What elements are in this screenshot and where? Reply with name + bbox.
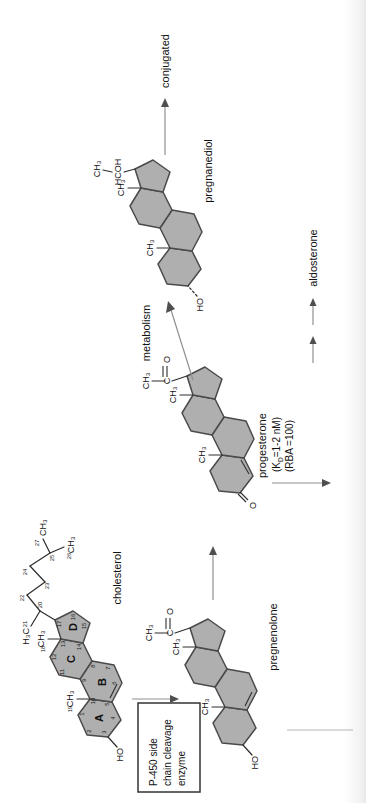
conjugated-label: conjugated	[159, 34, 171, 88]
enzyme-box-line3: enzyme	[176, 751, 187, 786]
ring-letter-a: A	[93, 714, 105, 722]
metabolism-label: metabolism	[140, 305, 152, 361]
progesterone-ketone-o-label: O	[248, 502, 258, 509]
progesterone-steroid-rings	[182, 367, 254, 493]
arrow-progesterone-to-aldosterone-1	[310, 336, 317, 363]
carbon-number-8: 8	[90, 664, 96, 667]
carbon-number-25: 25	[49, 555, 55, 561]
carbon-number-10: 10	[90, 698, 96, 704]
cholesterol-c19-methyl-label: CH₃	[65, 690, 75, 707]
carbon-number-18: 18	[40, 646, 46, 652]
pregnanediol-side-methyl-label: CH₃	[92, 160, 102, 177]
progesterone-c18-methyl-label: CH₃	[168, 386, 178, 403]
pregnenolone-name-label: pregnenolone	[267, 603, 279, 670]
carbon-number-1: 1	[79, 712, 85, 715]
carbon-number-11: 11	[59, 669, 65, 675]
arrow-progesterone-to-aldosterone-2	[310, 298, 317, 325]
carbon-number-9: 9	[81, 678, 87, 681]
pregnenolone-carbonyl-o-label: O	[165, 608, 175, 615]
cholesterol-hydroxyl-label: HO	[115, 748, 125, 762]
enzyme-box-line2: chain cleavage	[162, 719, 173, 786]
pregnanediol-steroid-rings	[130, 160, 202, 286]
cholesterol-c18-methyl-label: CH₃	[36, 630, 46, 647]
carbon-number-12: 12	[51, 654, 57, 660]
progesterone-carbonyl-c-label: C	[162, 377, 172, 384]
rotated-diagram-stage: HO CH₃ CH₃ H₃C CH₃ CH₃ A B C D 1 2 3 4 5…	[0, 0, 366, 803]
enzyme-box-line1: P-450 side	[148, 738, 159, 786]
cholesterol-name-label: cholesterol	[111, 551, 123, 604]
carbon-number-16: 16	[70, 614, 76, 620]
carbon-number-23: 23	[44, 583, 50, 589]
pregnenolone-c19-methyl-label: CH₃	[200, 698, 210, 715]
progesterone-acetyl-methyl-label: CH₃	[141, 372, 151, 389]
carbon-number-20: 20	[37, 602, 43, 608]
progesterone-carbonyl-o-label: O	[162, 356, 172, 363]
arrow-cholesterol-to-pregnenolone	[132, 695, 179, 703]
carbon-number-19: 19	[67, 706, 73, 712]
ring-letter-c: C	[65, 655, 77, 663]
scanned-figure-page: HO CH₃ CH₃ H₃C CH₃ CH₃ A B C D 1 2 3 4 5…	[0, 0, 366, 803]
pregnanediol-name-label: pregnanediol	[202, 139, 214, 203]
ring-letter-d: D	[67, 623, 79, 631]
pregnanediol-c19-methyl-label: CH₃	[145, 239, 155, 256]
pregnenolone-hydroxyl-label: HO	[250, 756, 260, 770]
cholesterol-c21-methyl-label: H₃C	[21, 628, 31, 645]
carbon-number-21: 21	[22, 621, 28, 627]
arrow-progesterone-down	[272, 479, 331, 487]
arrow-pregnanediol-to-conjugated	[161, 98, 169, 155]
progesterone-affinity-label: (KD=1-2 nM)	[271, 417, 284, 472]
cholesterol-c27-methyl-label: CH₃	[38, 519, 48, 536]
enzyme-box: P-450 side chain cleavage enzyme	[138, 703, 200, 792]
ring-letter-b: B	[96, 678, 108, 686]
steroid-pathway-diagram: HO CH₃ CH₃ H₃C CH₃ CH₃ A B C D 1 2 3 4 5…	[0, 0, 366, 803]
carbon-number-15: 15	[81, 623, 87, 629]
pregnenolone-carbonyl-c-label: C	[165, 629, 175, 636]
carbon-number-3: 3	[101, 730, 107, 733]
carbon-number-6: 6	[111, 681, 117, 684]
cholesterol-c26-methyl-label: CH₃	[66, 536, 76, 553]
pregnanediol-hcoh-label: HCOH	[113, 159, 123, 186]
pregnenolone-acetyl-methyl-label: CH₃	[144, 624, 154, 641]
pregnanediol-hydroxyl-label: HO	[195, 298, 205, 312]
carbon-number-26: 26	[66, 553, 72, 559]
aldosterone-label: aldosterone	[307, 229, 319, 287]
carbon-number-7: 7	[105, 666, 111, 669]
carbon-number-14: 14	[76, 643, 82, 650]
progesterone-c19-methyl-label: CH₃	[197, 446, 207, 463]
progesterone-rba-label: (RBA =100)	[284, 420, 295, 472]
carbon-number-13: 13	[60, 641, 66, 647]
pregnenolone-c18-methyl-label: CH₃	[171, 638, 181, 655]
carbon-number-5: 5	[104, 702, 110, 705]
progesterone-name-label: progesterone	[256, 413, 268, 478]
cholesterol-structure: HO CH₃ CH₃ H₃C CH₃ CH₃ A B C D 1 2 3 4 5…	[19, 519, 125, 761]
arrow-progesterone-to-metabolism	[166, 301, 193, 380]
arrow-pregnenolone-to-progesterone	[209, 546, 217, 600]
progesterone-structure: O CH₃ CH₃ C O CH₃	[141, 356, 258, 509]
carbon-number-24: 24	[22, 568, 28, 575]
carbon-number-22: 22	[19, 595, 25, 601]
carbon-number-27: 27	[34, 540, 40, 546]
pregnanediol-structure: HO CH₃ CH₃ HCOH CH₃	[92, 159, 205, 312]
carbon-number-17: 17	[56, 621, 62, 627]
carbon-number-2: 2	[86, 729, 92, 732]
